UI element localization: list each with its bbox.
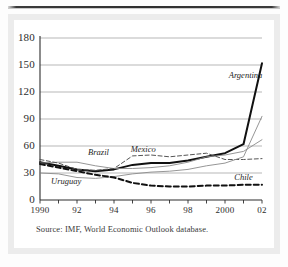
figure-panel: 0306090120150180 199092949698200002 Arge… xyxy=(0,0,288,267)
y-tick-label: 180 xyxy=(11,31,35,43)
x-tick-label: 02 xyxy=(248,205,276,215)
series-label-argentina: Argentina xyxy=(229,70,263,80)
series-label-mexico: Mexico xyxy=(131,144,156,154)
x-tick-label: 92 xyxy=(63,205,91,215)
series-label-chile: Chile xyxy=(234,172,252,182)
series-label-brazil: Brazil xyxy=(88,147,109,157)
x-tick-label: 94 xyxy=(100,205,128,215)
series-label-uruguay: Uruguay xyxy=(51,176,81,186)
y-tick-label: 30 xyxy=(11,166,35,178)
y-tick-label: 60 xyxy=(11,139,35,151)
x-tick-label: 1990 xyxy=(26,205,54,215)
y-tick-label: 120 xyxy=(11,85,35,97)
line-chart: 0306090120150180 199092949698200002 Arge… xyxy=(14,20,274,248)
y-tick-label: 90 xyxy=(11,112,35,124)
x-tick-label: 2000 xyxy=(211,205,239,215)
source-note: Source: IMF, World Economic Outlook data… xyxy=(36,224,208,234)
y-tick-label: 0 xyxy=(11,193,35,205)
top-divider-shadow xyxy=(8,8,280,9)
x-tick-label: 96 xyxy=(137,205,165,215)
x-tick-label: 98 xyxy=(174,205,202,215)
y-tick-label: 150 xyxy=(11,58,35,70)
